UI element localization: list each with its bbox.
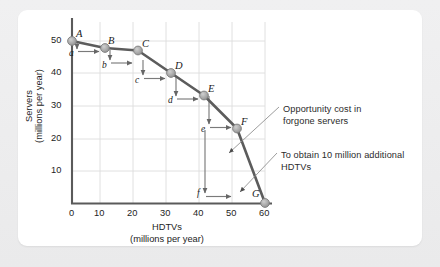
figure-root: A B C D E F G a b c d e f 50 40 30 20 10… bbox=[0, 0, 440, 267]
x-tick-50: 50 bbox=[226, 208, 236, 218]
step-label-c: c bbox=[135, 75, 139, 85]
annotation-additional-hdtvs: To obtain 10 million additional HDTVs bbox=[281, 150, 436, 173]
y-tick-40: 40 bbox=[51, 67, 61, 77]
x-tick-0: 0 bbox=[69, 208, 74, 218]
point-label-F: F bbox=[241, 116, 247, 127]
x-tick-60: 60 bbox=[259, 208, 269, 218]
step-label-d: d bbox=[168, 95, 173, 105]
y-tick-20: 20 bbox=[51, 133, 61, 143]
point-label-E: E bbox=[208, 83, 214, 94]
y-tick-50: 50 bbox=[51, 35, 61, 45]
x-tick-40: 40 bbox=[193, 208, 203, 218]
point-label-A: A bbox=[76, 28, 82, 39]
ppf-curve bbox=[72, 41, 265, 203]
y-axis-title: Servers bbox=[24, 36, 34, 176]
point-label-G: G bbox=[252, 188, 260, 199]
annotation-leaders bbox=[229, 107, 279, 192]
step-label-a: a bbox=[69, 48, 74, 58]
y-tick-30: 30 bbox=[51, 100, 61, 110]
grid-horizontal bbox=[72, 41, 265, 171]
x-axis-units: (millions per year) bbox=[102, 234, 232, 244]
x-axis-title: HDTVs bbox=[112, 222, 222, 232]
x-tick-30: 30 bbox=[160, 208, 170, 218]
step-label-e: e bbox=[201, 124, 205, 134]
x-tick-20: 20 bbox=[127, 208, 137, 218]
point-label-C: C bbox=[142, 38, 149, 49]
step-label-b: b bbox=[102, 60, 107, 70]
point-G bbox=[261, 199, 270, 208]
x-tick-10: 10 bbox=[94, 208, 104, 218]
y-axis-units: (millions per year) bbox=[34, 36, 44, 176]
annotation-opportunity-cost: Opportunity cost in forgone servers bbox=[283, 104, 433, 127]
step-label-f: f bbox=[197, 188, 200, 198]
y-tick-10: 10 bbox=[51, 165, 61, 175]
y-axis-title-wrap: Servers (millions per year) bbox=[24, 36, 44, 176]
point-label-D: D bbox=[175, 60, 183, 71]
data-markers bbox=[68, 37, 270, 208]
point-label-B: B bbox=[108, 35, 114, 46]
